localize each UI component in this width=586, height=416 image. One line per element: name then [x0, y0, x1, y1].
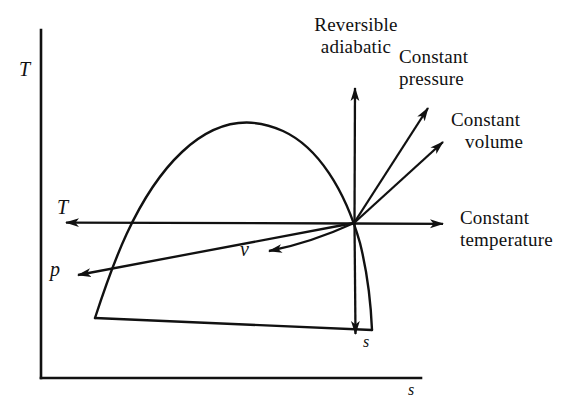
entropy-down-arrow	[355, 223, 356, 334]
figure-canvas: T s Reversible adiabatic Constant pressu…	[0, 0, 586, 416]
saturation-dome-curve	[95, 122, 372, 330]
constant-temperature-label-line2: temperature	[460, 229, 553, 250]
constant-pressure-label-line2: pressure	[399, 68, 464, 89]
reversible-adiabatic-up-arrow	[355, 88, 356, 223]
constant-volume-label-line1: Constant	[451, 109, 520, 130]
entropy-arrow-label: s	[363, 333, 369, 351]
constant-volume-label-line2: volume	[465, 131, 523, 152]
constant-temperature-line	[66, 223, 443, 224]
temperature-arrow-label: T	[57, 196, 68, 218]
reversible-adiabatic-label-line1: Reversible	[256, 14, 456, 35]
reversible-adiabatic-line	[355, 88, 356, 334]
constant-temperature-label-line1: Constant	[460, 207, 529, 228]
temperature-left-arrow	[66, 223, 354, 224]
y-axis-label: T	[19, 58, 30, 80]
constant-pressure-label-line1: Constant	[399, 46, 468, 67]
x-axis-label: s	[408, 381, 414, 399]
specific-volume-arrow-label: v	[240, 238, 249, 260]
axis-lines	[41, 30, 421, 378]
pressure-arrow-label: p	[50, 258, 60, 280]
constant-pressure-lower-branch	[95, 318, 372, 330]
